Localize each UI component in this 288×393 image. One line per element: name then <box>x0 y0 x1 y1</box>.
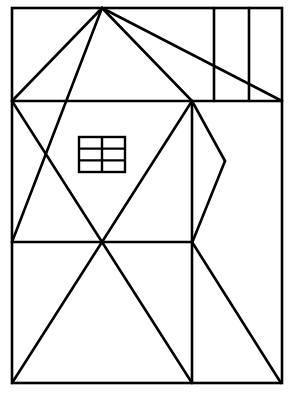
roof-left-line <box>12 8 102 101</box>
roof-right-line <box>102 8 192 101</box>
chevron-upper-line <box>192 101 225 161</box>
apex-to-left-mid-line <box>12 8 102 242</box>
house-line-drawing <box>0 0 288 393</box>
chevron-lower-line <box>192 161 225 243</box>
window-grid <box>79 137 125 172</box>
bottom-center-diagonal-line <box>102 242 192 383</box>
outer-frame <box>12 8 282 383</box>
long-diagonal-top-right-line <box>102 8 282 101</box>
bottom-right-diagonal-line <box>192 242 281 383</box>
figure-lines <box>12 8 282 383</box>
bottom-left-diagonal-line <box>12 242 102 383</box>
